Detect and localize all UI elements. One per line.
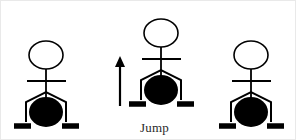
jump-caption: Jump: [140, 120, 169, 136]
body-ball: [144, 75, 178, 105]
up-arrow-icon: [115, 56, 125, 106]
head-ellipse: [234, 41, 268, 69]
stick-figure-scene: [0, 0, 296, 140]
jumping-figure-middle: [129, 19, 194, 105]
head-ellipse: [144, 19, 178, 47]
body-ball: [234, 97, 268, 127]
body-ball: [29, 97, 63, 127]
arrow-head: [115, 56, 125, 67]
standing-figure-left: [14, 41, 79, 127]
standing-figure-right: [219, 41, 284, 127]
head-ellipse: [29, 41, 63, 69]
diagram-canvas: Jump: [0, 0, 296, 140]
